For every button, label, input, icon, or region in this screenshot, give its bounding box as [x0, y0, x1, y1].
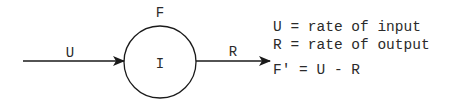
output-label: R [229, 44, 238, 60]
legend-line-output: R = rate of output [273, 37, 430, 53]
input-label: U [66, 45, 74, 61]
legend-line-input: U = rate of input [273, 19, 421, 35]
legend: U = rate of input R = rate of output F′ … [273, 19, 430, 78]
stock-label-top: F [156, 5, 164, 21]
flow-diagram: U F I R U = rate of input R = rate of ou… [0, 0, 461, 105]
stock-label-inside: I [156, 56, 164, 72]
legend-line-rate-equation: F′ = U - R [273, 62, 360, 78]
